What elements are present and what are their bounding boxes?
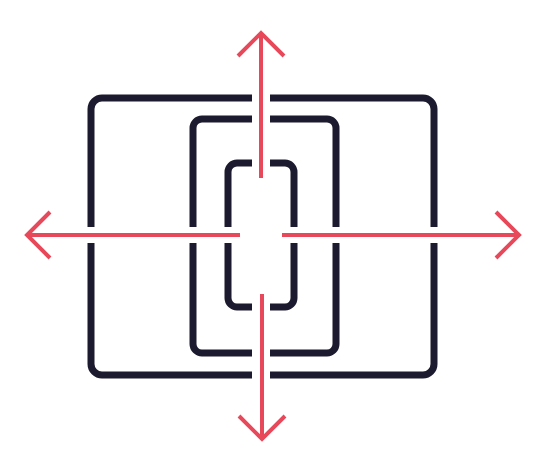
arrow-up-icon xyxy=(238,33,284,178)
arrow-down-icon xyxy=(239,294,285,440)
arrow-right-icon xyxy=(282,212,519,258)
expand-frames-diagram xyxy=(0,0,546,466)
arrow-left-icon xyxy=(27,212,240,258)
arrows xyxy=(27,33,519,440)
